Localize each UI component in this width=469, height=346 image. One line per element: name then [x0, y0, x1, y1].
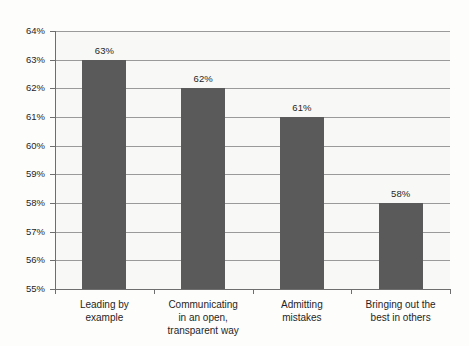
y-tick-mark — [50, 174, 56, 175]
y-tick-label: 63% — [0, 55, 45, 65]
y-tick-label: 62% — [0, 83, 45, 93]
x-tick-mark — [55, 289, 56, 294]
category-label: Admittingmistakes — [253, 298, 352, 324]
category-label: Bringing out thebest in others — [351, 298, 450, 324]
y-tick-mark — [50, 232, 56, 233]
y-tick-mark — [50, 203, 56, 204]
bar-value-label: 62% — [173, 74, 233, 84]
y-tick-label: 55% — [0, 284, 45, 294]
category-label-line: transparent way — [154, 324, 253, 337]
bar-value-label: 58% — [371, 189, 431, 199]
y-tick-mark — [50, 88, 56, 89]
y-tick-mark — [50, 31, 56, 32]
y-tick-label: 61% — [0, 112, 45, 122]
x-tick-mark — [154, 289, 155, 294]
y-tick-label: 58% — [0, 198, 45, 208]
y-tick-label: 57% — [0, 227, 45, 237]
y-tick-mark — [50, 260, 56, 261]
category-label-line: Bringing out the — [351, 298, 450, 311]
y-tick-label: 60% — [0, 141, 45, 151]
y-tick-label: 64% — [0, 26, 45, 36]
y-tick-mark — [50, 146, 56, 147]
bar[interactable] — [181, 88, 225, 289]
bar[interactable] — [82, 60, 126, 289]
category-label-line: Leading by — [55, 298, 154, 311]
category-label: Communicatingin an open,transparent way — [154, 298, 253, 337]
bar-value-label: 61% — [272, 103, 332, 113]
category-label-line: Admitting — [253, 298, 352, 311]
gridline — [55, 31, 450, 32]
category-label-line: mistakes — [253, 311, 352, 324]
category-label-line: Communicating — [154, 298, 253, 311]
chart-title-clipped — [0, 0, 469, 7]
bar[interactable] — [379, 203, 423, 289]
bar-value-label: 63% — [74, 46, 134, 56]
category-label-line: example — [55, 311, 154, 324]
y-tick-mark — [50, 60, 56, 61]
y-tick-label: 59% — [0, 169, 45, 179]
category-label: Leading byexample — [55, 298, 154, 324]
bar[interactable] — [280, 117, 324, 289]
y-tick-label: 56% — [0, 255, 45, 265]
category-label-line: in an open, — [154, 311, 253, 324]
x-tick-mark — [253, 289, 254, 294]
category-label-line: best in others — [351, 311, 450, 324]
x-tick-mark — [450, 289, 451, 294]
x-tick-mark — [351, 289, 352, 294]
y-axis-line — [55, 31, 56, 290]
chart-container: 64%63%62%61%60%59%58%57%56%55% 63%62%61%… — [0, 0, 469, 346]
y-tick-mark — [50, 117, 56, 118]
